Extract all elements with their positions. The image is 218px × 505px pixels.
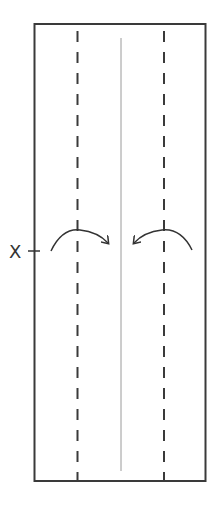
x-marker-label: X — [9, 241, 21, 262]
fold-diagram: X — [0, 0, 218, 505]
left-fold-arrow — [51, 230, 108, 251]
paper-outline — [35, 24, 206, 481]
